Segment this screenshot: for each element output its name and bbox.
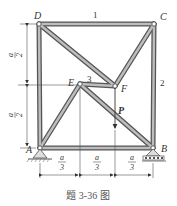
svg-text:3: 3 [94,163,99,172]
svg-text:3: 3 [129,163,134,172]
svg-text:a: a [60,153,64,162]
svg-text:a: a [130,153,134,162]
dim-vertical-bottom: a 2 [6,112,24,118]
node-label-F: F [120,83,128,94]
member-label-1: 1 [93,10,98,20]
member-label-3: 3 [87,74,92,84]
joint-E [78,82,82,86]
svg-text:3: 3 [59,163,64,172]
truss-diagram: P D C A B E F 1 2 3 a 2 a 2 a 3 [0,0,177,206]
joint-D [37,22,41,26]
dim-horizontal-3: a 3 [128,153,136,172]
node-label-C: C [160,11,167,22]
svg-text:a: a [6,53,15,57]
dim-vertical-top: a 2 [6,52,24,58]
node-label-E: E [67,77,74,88]
dim-horizontal-2: a 3 [93,153,101,172]
svg-text:2: 2 [15,113,24,117]
svg-text:a: a [95,153,99,162]
member-label-2: 2 [160,78,165,88]
node-label-A: A [25,144,33,155]
joint-C [152,22,156,26]
svg-text:a: a [6,113,15,117]
node-label-D: D [33,10,42,21]
svg-text:2: 2 [15,53,24,57]
node-label-B: B [161,143,167,154]
truss-members [39,24,154,148]
dim-horizontal-1: a 3 [58,153,66,172]
figure-caption: 题 3-36 图 [66,190,109,201]
load-label: P [118,105,125,116]
joint-F [113,84,117,88]
